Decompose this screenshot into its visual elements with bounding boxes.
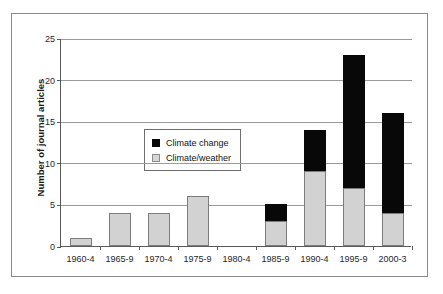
x-tick-label: 1990-4 [300,254,328,264]
plot-area: Climate change Climate/weather 051015202… [60,39,411,247]
bar-segment-climate-weather [343,188,365,246]
bar-segment-climate-weather [304,171,326,246]
y-tick-label: 0 [50,242,55,252]
gridline [61,39,412,40]
bar-segment-climate-change [343,55,365,188]
bar-segment-climate-weather [265,221,287,246]
bar-group [343,55,365,246]
x-tick-label: 1995-9 [339,254,367,264]
y-axis-title: Number of journal articles [35,48,46,228]
y-tick-mark [57,205,61,206]
x-tick-mark [373,246,374,250]
bar-segment-climate-weather [148,213,170,246]
x-tick-label: 2000-3 [378,254,406,264]
chart-legend: Climate change Climate/weather [144,129,241,171]
x-tick-label: 1985-9 [261,254,289,264]
legend-label: Climate/weather [166,153,231,163]
y-tick-label: 10 [45,159,55,169]
x-tick-mark [334,246,335,250]
x-tick-label: 1965-9 [105,254,133,264]
x-tick-label: 1975-9 [183,254,211,264]
bar-segment-climate-change [265,204,287,221]
y-tick-mark [57,39,61,40]
bar-segment-climate-weather [70,238,92,246]
x-tick-mark [178,246,179,250]
x-tick-mark [139,246,140,250]
bar-group [187,196,209,246]
legend-label: Climate change [166,138,229,148]
y-tick-mark [57,122,61,123]
x-tick-label: 1960-4 [66,254,94,264]
legend-item-climate-change: Climate change [152,135,231,150]
x-tick-label: 1980-4 [222,254,250,264]
chart-outer-frame: Number of journal articles Climate chang… [11,13,428,277]
x-tick-mark [412,246,413,250]
bar-segment-climate-change [304,130,326,172]
bar-segment-climate-weather [187,196,209,246]
bar-group [70,238,92,246]
y-tick-mark [57,80,61,81]
bar-segment-climate-weather [382,213,404,246]
y-tick-label: 20 [45,76,55,86]
gray-square-icon [152,154,160,162]
bar-group [382,113,404,246]
x-tick-mark [100,246,101,250]
y-tick-label: 15 [45,117,55,127]
y-tick-label: 5 [50,200,55,210]
x-tick-mark [256,246,257,250]
bar-segment-climate-weather [109,213,131,246]
y-tick-label: 25 [45,34,55,44]
bar-group [148,213,170,246]
x-tick-label: 1970-4 [144,254,172,264]
x-tick-mark [217,246,218,250]
y-tick-mark [57,163,61,164]
bar-group [304,130,326,246]
x-tick-mark [295,246,296,250]
black-square-icon [152,139,160,147]
chart-figure: Number of journal articles Climate chang… [0,0,443,294]
bar-group [109,213,131,246]
bar-segment-climate-change [382,113,404,213]
y-tick-mark [57,247,61,248]
bar-group [265,204,287,246]
